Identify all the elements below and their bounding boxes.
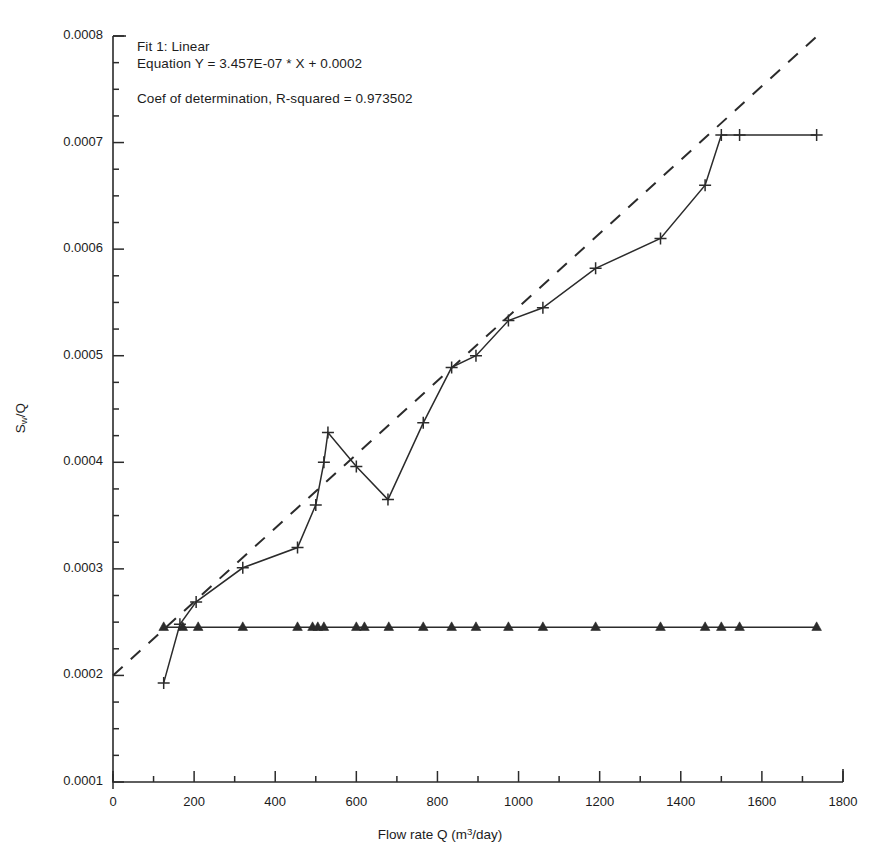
x-tick-label: 1800 <box>813 794 873 809</box>
y-tick-label: 0.0004 <box>31 453 103 468</box>
linear-fit-line <box>113 33 821 676</box>
x-axis-title-text: Flow rate Q (m3/day) <box>378 827 503 842</box>
chart-canvas: Fit 1: Linear Equation Y = 3.457E-07 * X… <box>0 0 880 862</box>
marker-plus <box>158 677 170 689</box>
marker-plus <box>590 262 602 274</box>
marker-triangle <box>293 622 303 631</box>
marker-triangle <box>447 622 457 631</box>
y-tick-label: 0.0007 <box>31 134 103 149</box>
marker-plus <box>417 417 429 429</box>
y-tick-label: 0.0005 <box>31 347 103 362</box>
marker-triangle <box>591 622 601 631</box>
marker-triangle <box>238 622 248 631</box>
r-squared-label: Coef of determination, R-squared = 0.973… <box>137 90 413 107</box>
marker-plus <box>237 562 249 574</box>
marker-triangle <box>812 622 822 631</box>
x-tick-label: 400 <box>245 794 305 809</box>
marker-triangle <box>471 622 481 631</box>
y-axis-title-sub: w <box>18 417 29 424</box>
plot-svg <box>0 0 880 862</box>
axis-frame <box>113 36 843 782</box>
marker-triangle <box>700 622 710 631</box>
x-tick-label: 1200 <box>570 794 630 809</box>
x-tick-label: 0 <box>83 794 143 809</box>
equation-label: Equation Y = 3.457E-07 * X + 0.0002 <box>137 55 362 72</box>
measured-data-line <box>164 135 817 683</box>
x-tick-label: 1600 <box>732 794 792 809</box>
x-tick-group <box>113 771 843 789</box>
marker-plus <box>537 302 549 314</box>
x-tick-label: 1400 <box>651 794 711 809</box>
baseline-marker-group <box>159 622 822 631</box>
marker-plus <box>715 129 727 141</box>
marker-plus <box>310 499 322 511</box>
x-tick-label: 600 <box>326 794 386 809</box>
marker-triangle <box>418 622 428 631</box>
x-tick-label: 800 <box>407 794 467 809</box>
marker-plus <box>734 129 746 141</box>
fit-label: Fit 1: Linear <box>137 38 210 55</box>
marker-plus <box>292 542 304 554</box>
measured-marker-group <box>158 129 823 689</box>
marker-plus <box>811 129 823 141</box>
y-axis-title-main: S <box>13 424 28 433</box>
marker-triangle <box>504 622 514 631</box>
y-tick-label: 0.0006 <box>31 240 103 255</box>
y-axis-title-tail: /Q <box>13 403 28 417</box>
y-tick-label: 0.0002 <box>31 666 103 681</box>
marker-triangle <box>735 622 745 631</box>
y-axis-title: Sw/Q <box>13 373 29 463</box>
marker-triangle <box>384 622 394 631</box>
marker-triangle <box>538 622 548 631</box>
x-tick-label: 1000 <box>489 794 549 809</box>
marker-triangle <box>352 622 362 631</box>
marker-triangle <box>717 622 727 631</box>
x-axis-title: Flow rate Q (m3/day) <box>0 826 880 842</box>
y-tick-label: 0.0003 <box>31 560 103 575</box>
y-tick-label: 0.0001 <box>31 773 103 788</box>
marker-triangle <box>193 622 203 631</box>
y-tick-label: 0.0008 <box>31 27 103 42</box>
x-tick-label: 200 <box>164 794 224 809</box>
marker-plus <box>190 596 202 608</box>
marker-triangle <box>656 622 666 631</box>
marker-triangle <box>360 622 370 631</box>
marker-plus <box>318 456 330 468</box>
